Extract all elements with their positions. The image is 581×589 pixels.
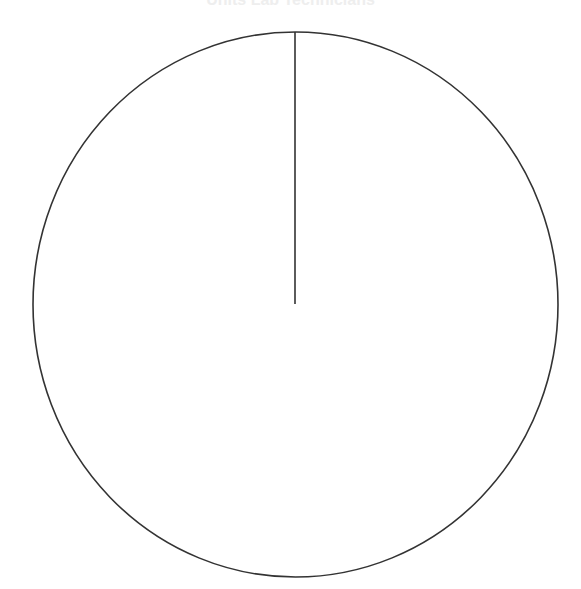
pie-chart: [0, 0, 581, 589]
